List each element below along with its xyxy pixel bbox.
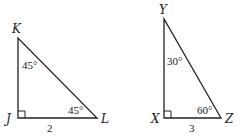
vertex-label-j: J [3,112,12,126]
vertex-label-y: Y [159,3,168,17]
right-angle-marker-x [164,111,171,118]
vertex-label-l: L [100,112,109,126]
diagram-canvas: K J L 45° 45° 2 Y X Z 30° 60° 3 [0,0,243,136]
angle-label-k: 45° [22,59,37,71]
side-length-xz: 3 [189,122,195,134]
vertex-label-x: X [150,112,160,126]
triangle-jkl-shape [18,38,97,118]
right-angle-marker-j [18,111,25,118]
vertex-label-z: Z [224,112,234,126]
angle-label-z: 60° [197,104,212,116]
angle-label-l: 45° [68,104,83,116]
angle-label-y: 30° [167,55,182,67]
triangle-xyz-shape [164,19,221,118]
triangle-xyz: Y X Z 30° 60° 3 [150,3,234,134]
vertex-label-k: K [11,22,22,36]
side-length-jl: 2 [47,122,53,134]
triangle-jkl: K J L 45° 45° 2 [3,22,109,134]
